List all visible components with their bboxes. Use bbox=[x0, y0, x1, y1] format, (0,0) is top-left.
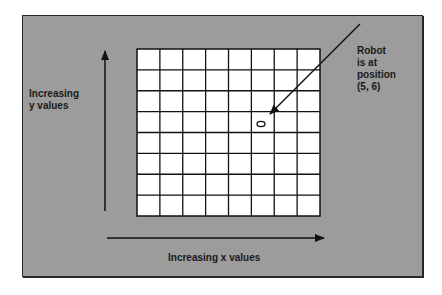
x-axis-label: Increasing x values bbox=[168, 252, 260, 264]
coordinate-grid bbox=[137, 49, 320, 216]
robot-position-callout: Robot is at position (5, 6) bbox=[357, 45, 396, 93]
robot-marker bbox=[257, 121, 265, 126]
y-axis-label: Increasing y values bbox=[29, 88, 79, 112]
